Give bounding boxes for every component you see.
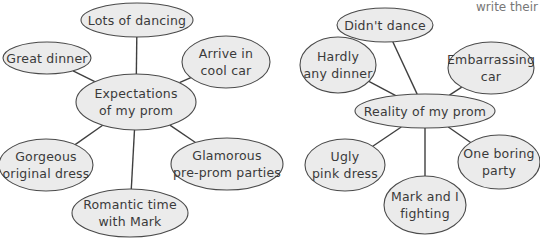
- branch-node-label: Embarrassing car: [447, 51, 535, 85]
- branch-node: Gorgeous original dress: [0, 139, 93, 191]
- central-node-expectations-label: Expectations of my prom: [94, 85, 177, 119]
- branch-node: Great dinner: [3, 42, 91, 74]
- central-node-reality-label: Reality of my prom: [364, 103, 486, 120]
- branch-node-label: Hardly any dinner: [303, 48, 372, 82]
- branch-node: Glamorous pre-prom parties: [171, 138, 283, 190]
- branch-node: One boring party: [458, 135, 540, 189]
- connector-line: [131, 130, 134, 189]
- branch-node: Embarrassing car: [448, 42, 534, 94]
- branch-node-label: Ugly pink dress: [312, 148, 378, 182]
- cropped-caption-text: write their: [476, 0, 538, 14]
- branch-node-label: Lots of dancing: [88, 12, 187, 29]
- branch-node-label: Romantic time with Mark: [83, 196, 177, 230]
- branch-node-label: Arrive in cool car: [199, 45, 253, 79]
- branch-node-label: Glamorous pre-prom parties: [173, 147, 281, 181]
- branch-node: Lots of dancing: [81, 3, 193, 37]
- branch-node-label: Gorgeous original dress: [2, 148, 89, 182]
- branch-node: Ugly pink dress: [305, 139, 385, 191]
- branch-node: Mark and I fighting: [384, 176, 466, 234]
- branch-node: Romantic time with Mark: [72, 189, 188, 237]
- branch-node-label: One boring party: [463, 145, 534, 179]
- central-node-expectations: Expectations of my prom: [76, 74, 196, 130]
- branch-node: Hardly any dinner: [300, 37, 376, 93]
- branch-node-label: Didn't dance: [344, 17, 426, 34]
- connector-line: [393, 42, 417, 94]
- branch-node: Arrive in cool car: [182, 36, 270, 88]
- central-node-reality: Reality of my prom: [355, 94, 495, 128]
- branch-node-label: Great dinner: [6, 50, 87, 67]
- branch-node-label: Mark and I fighting: [391, 188, 459, 222]
